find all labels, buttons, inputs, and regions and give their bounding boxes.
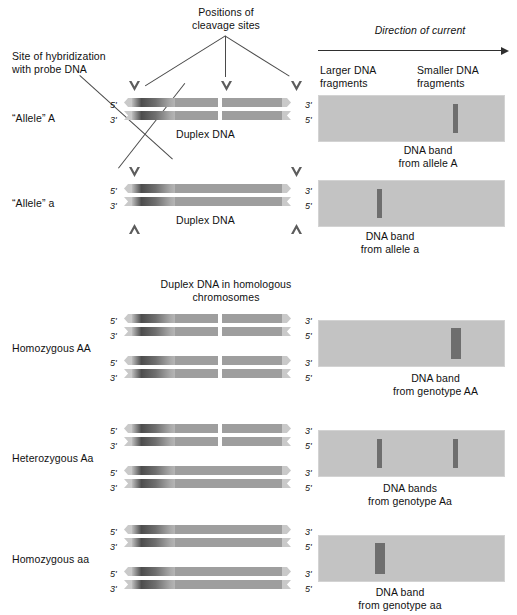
dna-strand-bottom (124, 538, 300, 547)
dna-segment (175, 184, 282, 193)
dna-band (377, 189, 382, 218)
five-prime-tick: 5' (110, 570, 117, 579)
gel-caption-homozygous-aa: DNA band from genotype aa (330, 586, 470, 611)
strand-cap-right (282, 369, 291, 378)
three-prime-tick: 3' (305, 528, 312, 537)
three-prime-tick: 3' (110, 116, 117, 125)
five-prime-tick: 5' (305, 116, 312, 125)
dna-segment (222, 111, 282, 120)
cleavage-chevron-up-a-right (290, 221, 303, 235)
probe-hybridization-region (132, 567, 175, 576)
dna-segment (175, 466, 282, 475)
gel-lane-heterozygous-Aa (318, 430, 505, 477)
dna-strand-bottom (124, 437, 300, 446)
dna-strand-top (124, 567, 300, 576)
dna-strand-top (124, 184, 300, 193)
dna-band (375, 543, 385, 574)
probe-hybridization-region (132, 184, 175, 193)
gel-lane-homozygous-aa (318, 535, 505, 582)
duplex-dna-caption: Duplex DNA (176, 214, 235, 227)
gel-lane-homozygous-AA (318, 320, 505, 367)
probe-hybridization-region (132, 466, 175, 475)
gel-caption-heterozygous-Aa: DNA bands from genotype Aa (340, 482, 480, 507)
three-prime-tick: 3' (305, 101, 312, 110)
gel-caption-homozygous-AA: DNA band from genotype AA (368, 372, 503, 397)
dna-segment (175, 369, 218, 378)
three-prime-tick: 3' (110, 585, 117, 594)
duplex-AA-chromosome-2 (124, 356, 300, 382)
dna-segment (222, 327, 282, 336)
duplex-dna-caption: Duplex DNA (176, 128, 235, 141)
dna-segment (175, 424, 218, 433)
dna-strand-bottom (124, 479, 300, 488)
five-prime-tick: 5' (305, 332, 312, 341)
probe-hybridization-region (132, 580, 175, 589)
five-prime-tick: 5' (305, 484, 312, 493)
five-prime-tick: 5' (110, 101, 117, 110)
dna-segment (175, 197, 282, 206)
three-prime-tick: 3' (110, 442, 117, 451)
three-prime-tick: 3' (305, 317, 312, 326)
allele-A-label: “Allele” A (12, 112, 55, 125)
cleavage-chevron-down-A-left (128, 80, 141, 94)
probe-hybridization-region (132, 437, 175, 446)
probe-hybridization-region (132, 98, 175, 107)
dna-strand-top (124, 98, 300, 107)
strand-cap-right (282, 314, 291, 323)
allele-a-label: “Allele” a (12, 197, 54, 210)
cleavage-chevron-down-a-left (128, 166, 141, 180)
cleavage-chevron-down-A-center (220, 80, 233, 94)
dna-strand-top (124, 424, 300, 433)
dna-strand-bottom (124, 111, 300, 120)
probe-hybridization-region (132, 197, 175, 206)
current-arrow-head (501, 47, 509, 55)
three-prime-tick: 3' (305, 187, 312, 196)
five-prime-tick: 5' (110, 469, 117, 478)
current-arrow-line (318, 50, 503, 51)
strand-cap-right (282, 525, 291, 534)
dna-segment (175, 437, 218, 446)
strand-cap-right (282, 184, 291, 193)
dna-segment (222, 424, 282, 433)
cleavage-leader-right (225, 36, 289, 77)
dna-segment (175, 580, 282, 589)
dna-segment (175, 538, 282, 547)
probe-leader-lower (118, 83, 185, 169)
homozygous-AA-label: Homozygous AA (12, 342, 91, 355)
cleavage-chevron-down-A-right (290, 80, 303, 94)
dna-band (453, 104, 458, 133)
dna-strand-bottom (124, 197, 300, 206)
cleavage-chevron-up-a-left (128, 221, 141, 235)
three-prime-tick: 3' (305, 359, 312, 368)
dna-segment (222, 369, 282, 378)
five-prime-tick: 5' (110, 359, 117, 368)
three-prime-tick: 3' (110, 374, 117, 383)
duplex-allele-a (124, 184, 300, 210)
dna-band (453, 439, 458, 468)
gel-lane-allele-A (318, 95, 505, 142)
gel-caption-allele-A: DNA band from allele A (368, 144, 488, 169)
gel-lane-allele-a (318, 180, 505, 227)
cleavage-chevron-down-a-right (290, 166, 303, 180)
three-prime-tick: 3' (110, 332, 117, 341)
rflp-figure: Positions of cleavage sites Site of hybr… (0, 0, 517, 615)
homologous-chromosomes-caption: Duplex DNA in homologous chromosomes (126, 278, 326, 303)
site-of-hybridization-label: Site of hybridization with probe DNA (12, 50, 162, 75)
dna-strand-top (124, 466, 300, 475)
five-prime-tick: 5' (305, 585, 312, 594)
probe-hybridization-region (132, 356, 175, 365)
strand-cap-right (282, 466, 291, 475)
dna-segment (175, 98, 218, 107)
dna-strand-bottom (124, 580, 300, 589)
three-prime-tick: 3' (305, 469, 312, 478)
probe-hybridization-region (132, 369, 175, 378)
five-prime-tick: 5' (110, 187, 117, 196)
dna-segment (175, 356, 218, 365)
dna-segment (175, 111, 218, 120)
strand-cap-right (282, 197, 291, 206)
strand-cap-right (282, 538, 291, 547)
strand-cap-right (282, 424, 291, 433)
probe-hybridization-region (132, 314, 175, 323)
dna-band (451, 328, 461, 359)
probe-hybridization-region (132, 525, 175, 534)
